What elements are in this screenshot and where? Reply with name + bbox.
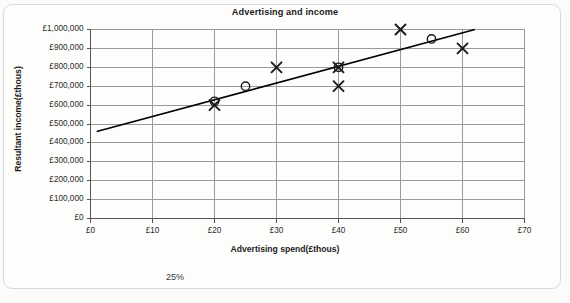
x-axis-label: Advertising spend(£thous) xyxy=(0,244,570,254)
x-tick-label: £60 xyxy=(438,226,488,235)
x-tick-label: £10 xyxy=(128,226,178,235)
x-tick-label: £70 xyxy=(500,226,550,235)
x-tick-label: £50 xyxy=(376,226,426,235)
footnote-percentage: 25% xyxy=(166,272,184,282)
x-tick-label: £20 xyxy=(190,226,240,235)
gridlines-group xyxy=(91,30,525,219)
screenshot-root: Advertising and income Resultant income(… xyxy=(0,0,570,303)
y-tick-label: £800,000 xyxy=(0,62,84,71)
y-tick-label: £100,000 xyxy=(0,194,84,203)
y-tick-label: £300,000 xyxy=(0,156,84,165)
trendline-path xyxy=(97,30,475,132)
y-tick-label: £700,000 xyxy=(0,81,84,90)
y-tick-label: £500,000 xyxy=(0,119,84,128)
scatter-chart: Advertising and income Resultant income(… xyxy=(0,0,570,303)
x-tick-label: £40 xyxy=(314,226,364,235)
x-tick-label: £30 xyxy=(252,226,302,235)
y-tick-label: £0 xyxy=(0,213,84,222)
y-tick-label: £400,000 xyxy=(0,137,84,146)
y-tick-label: £900,000 xyxy=(0,43,84,52)
y-tick-label: £600,000 xyxy=(0,100,84,109)
x-tick-label: £0 xyxy=(66,226,116,235)
trendline xyxy=(97,30,475,132)
y-tick-label: £200,000 xyxy=(0,175,84,184)
chart-plot-svg xyxy=(0,0,570,303)
y-tick-label: £1,000,000 xyxy=(0,24,84,33)
